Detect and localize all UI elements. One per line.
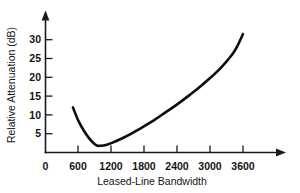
x-axis-title: Leased-Line Bandwidth [97,175,207,187]
y-axis [42,11,50,153]
x-axis [46,149,287,157]
y-axis-tick-labels: 5 10 15 20 25 30 [29,33,41,139]
y-tick-label-10: 10 [29,109,41,121]
y-tick-label-30: 30 [29,33,41,45]
attenuation-curve [73,34,243,146]
x-tick-label-1800: 1800 [132,160,156,172]
y-axis-title: Relative Attenuation (dB) [5,27,17,143]
y-tick-label-20: 20 [29,71,41,83]
x-tick-label-1200: 1200 [99,160,123,172]
attenuation-vs-bandwidth-chart: 5 10 15 20 25 30 0 600 1200 1800 2400 30… [0,0,300,193]
x-tick-label-3000: 3000 [198,160,222,172]
x-tick-label-600: 600 [69,160,87,172]
x-axis-arrow-icon [276,149,286,157]
x-tick-label-3600: 3600 [231,160,255,172]
y-tick-label-5: 5 [35,127,41,139]
chart-figure: 5 10 15 20 25 30 0 600 1200 1800 2400 30… [0,0,300,193]
x-axis-tick-labels: 0 600 1200 1800 2400 3000 3600 [43,160,255,172]
y-axis-ticks [46,40,53,134]
x-tick-label-2400: 2400 [165,160,189,172]
x-tick-label-0: 0 [43,160,49,172]
y-tick-label-15: 15 [29,90,41,102]
y-tick-label-25: 25 [29,52,41,64]
y-axis-arrow-icon [42,11,50,21]
